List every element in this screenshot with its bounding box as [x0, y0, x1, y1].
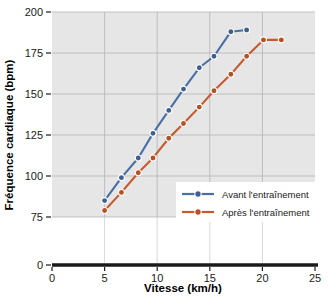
- chart-legend: Avant l'entraînement Après l'entraînemen…: [176, 182, 328, 222]
- x-tick-label: 25: [309, 272, 321, 284]
- data-point[interactable]: [102, 207, 108, 213]
- data-point[interactable]: [244, 27, 250, 33]
- line-chart: 075100125150175200 0510152025 Vitesse (k…: [0, 0, 335, 297]
- data-point[interactable]: [211, 88, 217, 94]
- legend-label-avant: Avant l'entraînement: [222, 189, 309, 200]
- y-tick-label: 125: [25, 129, 43, 141]
- data-point[interactable]: [228, 71, 234, 77]
- data-point[interactable]: [260, 37, 266, 43]
- y-tick-label: 175: [25, 47, 43, 59]
- legend-label-apres: Après l'entraînement: [222, 207, 310, 218]
- x-tick-label: 20: [256, 272, 268, 284]
- data-point[interactable]: [150, 130, 156, 136]
- data-point[interactable]: [118, 175, 124, 181]
- x-tick-label: 0: [49, 272, 55, 284]
- data-point[interactable]: [166, 135, 172, 141]
- y-tick-label: 100: [25, 170, 43, 182]
- data-point[interactable]: [278, 37, 284, 43]
- legend-swatch-marker-avant: [195, 191, 201, 197]
- y-axis: 075100125150175200: [25, 6, 51, 271]
- data-point[interactable]: [228, 29, 234, 35]
- data-point[interactable]: [181, 121, 187, 127]
- data-point[interactable]: [244, 53, 250, 59]
- y-tick-label: 0: [37, 259, 43, 271]
- x-tick-label: 5: [102, 272, 108, 284]
- data-point[interactable]: [166, 107, 172, 113]
- chart-figure: 075100125150175200 0510152025 Vitesse (k…: [0, 0, 335, 297]
- y-tick-label: 75: [31, 211, 43, 223]
- data-point[interactable]: [135, 170, 141, 176]
- data-point[interactable]: [102, 198, 108, 204]
- data-point[interactable]: [150, 155, 156, 161]
- data-point[interactable]: [181, 86, 187, 92]
- data-point[interactable]: [196, 65, 202, 71]
- data-point[interactable]: [196, 104, 202, 110]
- y-tick-label: 150: [25, 88, 43, 100]
- y-axis-title: Fréquence cardiaque (bpm): [3, 59, 15, 210]
- legend-swatch-marker-apres: [195, 209, 201, 215]
- x-axis-title: Vitesse (km/h): [144, 282, 222, 294]
- data-point[interactable]: [135, 155, 141, 161]
- y-tick-label: 200: [25, 6, 43, 18]
- data-point[interactable]: [118, 189, 124, 195]
- data-point[interactable]: [211, 53, 217, 59]
